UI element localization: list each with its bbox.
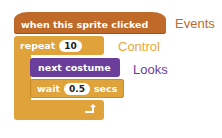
repeat-label: repeat [20, 40, 55, 51]
repeat-count-input[interactable]: 10 [59, 40, 82, 52]
next-costume-text: next costume [38, 62, 111, 73]
repeat-block-bottom [14, 100, 104, 120]
loop-arrow-icon [84, 104, 96, 116]
hat-block-text: when this sprite clicked [21, 19, 148, 30]
repeat-block[interactable]: repeat 10 [14, 36, 104, 55]
repeat-block-side [14, 50, 31, 105]
wait-block[interactable]: wait 0.5 secs [30, 79, 124, 98]
next-costume-block[interactable]: next costume [30, 58, 120, 77]
wait-label: wait [37, 83, 60, 94]
when-sprite-clicked-block[interactable]: when this sprite clicked [14, 12, 166, 34]
events-label: Events [175, 16, 215, 31]
control-label: Control [118, 39, 160, 54]
looks-label: Looks [133, 62, 168, 77]
wait-unit: secs [94, 83, 117, 94]
wait-seconds-input[interactable]: 0.5 [64, 83, 90, 95]
